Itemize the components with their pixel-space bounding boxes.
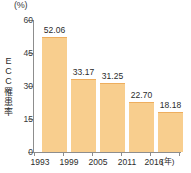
y-axis-title-char: C: [2, 66, 15, 76]
x-tick-mark: [92, 152, 93, 156]
y-tick-group: 60: [0, 20, 33, 21]
plot-area: 52.06 33.17 31.25 22.70 18.18: [34, 20, 181, 152]
x-tick-mark: [179, 152, 180, 156]
y-tick-label: 45: [7, 49, 33, 58]
y-axis-unit-label: (%): [14, 0, 27, 11]
bar-value-label: 22.70: [131, 91, 152, 100]
bar-slot: 33.17: [69, 20, 98, 152]
x-tick-mark: [150, 152, 151, 156]
bar-value-label: 52.06: [44, 26, 65, 35]
y-tick-label: 15: [7, 115, 33, 124]
bar-1999[interactable]: [71, 79, 96, 152]
y-tick-group: 30: [0, 86, 33, 87]
bar-2011[interactable]: [129, 102, 154, 152]
y-tick-group: 15: [0, 119, 33, 120]
y-axis-title-char: 患: [2, 97, 15, 107]
bar-value-label: 18.18: [160, 101, 181, 110]
x-axis-unit-label: (年): [161, 157, 174, 167]
bar-slot: 18.18: [156, 20, 185, 152]
x-tick-mark: [63, 152, 64, 156]
bar-value-label: 31.25: [102, 72, 123, 81]
x-axis-line: [33, 152, 181, 153]
y-tick-label: 30: [7, 82, 33, 91]
bar-1993[interactable]: [42, 37, 67, 152]
x-tick-mark: [34, 152, 35, 156]
bar-slot: 52.06: [40, 20, 69, 152]
x-tick-mark: [121, 152, 122, 156]
y-tick-group: 45: [0, 53, 33, 54]
bar-slot: 31.25: [98, 20, 127, 152]
y-tick-label: 0: [7, 148, 33, 157]
bar-slot: 22.70: [127, 20, 156, 152]
bar-2016[interactable]: [158, 112, 183, 152]
y-tick-group: 0: [0, 152, 33, 153]
bar-value-label: 33.17: [73, 68, 94, 77]
bar-chart: (%) E C C 罹 患 率 60 45 30 15 0 52.06: [0, 0, 191, 173]
y-tick-label: 60: [7, 16, 33, 25]
bar-2005[interactable]: [100, 83, 125, 152]
